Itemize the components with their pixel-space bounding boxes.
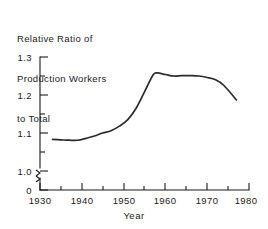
x-axis-label-1930: 1930 [18, 195, 62, 206]
x-axis-label-1940: 1940 [60, 195, 104, 206]
y-axis-break-marker [36, 170, 40, 176]
y-axis-label-1-2: 1.2 [6, 90, 32, 101]
y-axis-label-1-0: 1.0 [6, 166, 32, 177]
x-axis-label-1960: 1960 [143, 195, 187, 206]
x-axis-label-1950: 1950 [102, 195, 146, 206]
y-axis-break-marker-2 [36, 176, 40, 182]
data-line-relative-ratio [53, 73, 237, 140]
x-axis-title: Year [0, 210, 268, 221]
y-axis-label-1-3: 1.3 [6, 52, 32, 63]
x-axis-label-1970: 1970 [185, 195, 229, 206]
x-axis-label-1980: 1980 [224, 195, 268, 206]
y-axis-label-1-1: 1.1 [6, 128, 32, 139]
chart-figure: Relative Ratio of Production Workers to … [0, 0, 268, 229]
